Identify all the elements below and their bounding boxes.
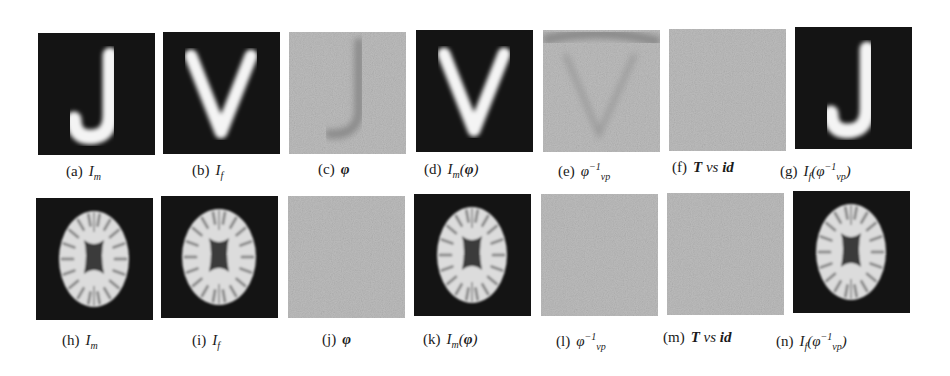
subfigure-label: (c) [318, 161, 335, 177]
panel-c-deformation-phi [289, 32, 406, 154]
letter-J-image [38, 33, 155, 155]
panel-m-T-vs-id [667, 193, 784, 315]
subfigure-math: φ [341, 161, 350, 177]
subfigure-label: (f) [672, 159, 687, 175]
caption-n: (n)If(φ−1vp) [776, 328, 847, 356]
subfigure-math: φ [342, 331, 351, 347]
caption-g: (g)If(φ−1vp) [780, 158, 851, 186]
subfigure-math: Im [86, 332, 98, 348]
subfigure-label: (g) [780, 163, 798, 179]
caption-h: (h)Im [62, 331, 98, 355]
subfigure-label: (h) [62, 332, 80, 348]
subfigure-math: Im [89, 163, 101, 179]
caption-j: (j)φ [322, 330, 351, 348]
subfigure-math: If [212, 332, 220, 348]
panel-f-T-vs-id [669, 29, 786, 151]
panel-h-moving-brain [36, 198, 153, 320]
subfigure-math: T vs id [693, 159, 734, 175]
uniform-noise-image [288, 196, 405, 318]
brain-slice-wide-image [161, 196, 278, 318]
subfigure-math: If(φ−1vp) [800, 333, 847, 349]
figure: (a)Im (b)If (c)φ (d)Im(φ) (e)φ−1vp (f)T … [0, 0, 950, 376]
deformation-J-shape-image [289, 32, 406, 154]
subfigure-label: (l) [556, 333, 570, 349]
subfigure-math: φ−1vp [576, 333, 606, 349]
caption-i: (i)If [192, 331, 220, 355]
subfigure-math: φ−1vp [581, 163, 611, 179]
subfigure-label: (n) [776, 333, 794, 349]
subfigure-label: (m) [663, 329, 685, 345]
deformation-V-shape-image [543, 30, 660, 152]
subfigure-math: Im(φ) [447, 331, 478, 347]
panel-a-moving-image-J [38, 33, 155, 155]
subfigure-label: (k) [423, 331, 441, 347]
subfigure-math: If [216, 162, 224, 178]
caption-b: (b)If [192, 161, 223, 185]
panel-g-warped-fixed [795, 27, 912, 149]
caption-m: (m)T vs id [663, 328, 732, 346]
uniform-noise-image [541, 194, 658, 316]
uniform-noise-image [669, 29, 786, 151]
caption-a: (a)Im [66, 162, 101, 186]
panel-n-warped-fixed-brain [793, 191, 910, 313]
brain-slice-image [414, 194, 531, 316]
panel-d-warped-moving [416, 30, 533, 152]
subfigure-label: (a) [66, 163, 83, 179]
subfigure-math: Im(φ) [448, 161, 479, 177]
subfigure-label: (b) [192, 162, 210, 178]
caption-c: (c)φ [318, 160, 349, 178]
panel-e-inverse-deformation [543, 30, 660, 152]
subfigure-label: (i) [192, 332, 206, 348]
letter-V-image [163, 32, 280, 154]
brain-slice-image [36, 198, 153, 320]
panel-j-deformation-phi [288, 196, 405, 318]
caption-d: (d)Im(φ) [424, 160, 479, 184]
panel-i-fixed-brain [161, 196, 278, 318]
uniform-noise-image [667, 193, 784, 315]
letter-J-image [795, 27, 912, 149]
subfigure-math: T vs id [691, 329, 732, 345]
subfigure-label: (d) [424, 161, 442, 177]
subfigure-math: If(φ−1vp) [804, 163, 851, 179]
letter-V-image [416, 30, 533, 152]
subfigure-label: (j) [322, 331, 336, 347]
panel-b-fixed-image-V [163, 32, 280, 154]
panel-l-inverse-deformation [541, 194, 658, 316]
subfigure-label: (e) [558, 163, 575, 179]
caption-f: (f)T vs id [672, 158, 734, 176]
caption-l: (l)φ−1vp [556, 328, 606, 356]
caption-k: (k)Im(φ) [423, 330, 478, 354]
brain-slice-image [793, 191, 910, 313]
panel-k-warped-moving-brain [414, 194, 531, 316]
caption-e: (e)φ−1vp [558, 158, 610, 186]
